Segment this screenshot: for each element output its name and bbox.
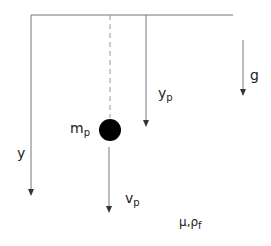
particle-mass-label: mp (70, 120, 90, 138)
particle (99, 119, 121, 141)
y-axis-label: y (17, 145, 25, 161)
gravity-arrowhead-icon (240, 89, 246, 96)
yp-label: yp (158, 85, 173, 103)
particle-settling-diagram: y yp g mp vp μ,ρf (0, 0, 271, 246)
particle-velocity-label: vp (125, 190, 140, 208)
fluid-properties-label: μ,ρf (179, 215, 202, 231)
y-arrowhead-icon (28, 189, 34, 196)
velocity-arrowhead-icon (106, 206, 112, 213)
gravity-label: g (250, 67, 259, 83)
yp-arrowhead-icon (143, 120, 149, 127)
